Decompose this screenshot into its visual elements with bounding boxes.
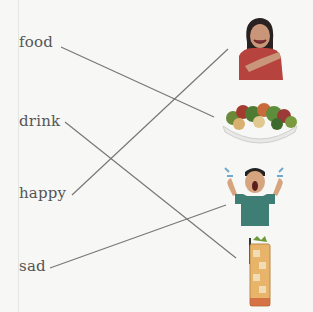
iced-drink-picture [245, 236, 275, 308]
line-food-salad [61, 47, 214, 117]
matching-exercise: food drink happy sad [0, 0, 313, 312]
line-drink-drink [65, 122, 236, 258]
happy-woman-picture [233, 14, 289, 80]
line-sad-man [50, 205, 226, 268]
crying-man-picture [219, 164, 291, 226]
line-happy-woman [72, 49, 228, 195]
salad-bowl-picture [221, 96, 299, 146]
